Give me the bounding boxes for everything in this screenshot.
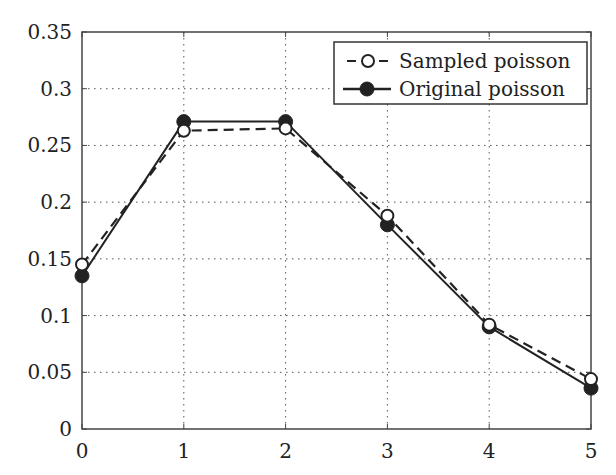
y-axis-tick-labels: 00.050.10.150.20.250.30.35 [27, 20, 72, 441]
legend-label-sampled: Sampled poisson [399, 49, 571, 73]
y-tick-label: 0.3 [40, 77, 72, 101]
x-tick-label: 0 [76, 439, 89, 463]
legend-label-original: Original poisson [399, 77, 565, 101]
data-series [75, 115, 598, 396]
series-line [82, 122, 591, 389]
x-axis-tick-labels: 012345 [76, 439, 598, 463]
open-circle-marker [585, 373, 597, 385]
open-circle-marker [381, 210, 393, 222]
x-tick-label: 2 [279, 439, 292, 463]
x-tick-label: 5 [585, 439, 598, 463]
y-tick-label: 0.05 [27, 360, 72, 384]
y-tick-label: 0.35 [27, 20, 72, 44]
open-circle-marker [280, 122, 292, 134]
open-circle-marker [178, 125, 190, 137]
x-tick-label: 1 [177, 439, 190, 463]
open-circle-marker [483, 319, 495, 331]
y-tick-label: 0.15 [27, 247, 72, 271]
y-tick-label: 0 [59, 417, 72, 441]
x-tick-label: 4 [483, 439, 496, 463]
open-circle-marker [76, 259, 88, 271]
y-tick-label: 0.1 [40, 304, 72, 328]
legend-filled-circle-icon [360, 82, 374, 96]
y-tick-label: 0.25 [27, 133, 72, 157]
legend: Sampled poisson Original poisson [334, 42, 587, 104]
legend-open-circle-icon [362, 55, 374, 67]
series-original-poisson [75, 115, 598, 396]
x-tick-label: 3 [381, 439, 394, 463]
y-tick-label: 0.2 [40, 190, 72, 214]
poisson-line-chart: 00.050.10.150.20.250.30.35 012345 Sample… [0, 0, 616, 475]
